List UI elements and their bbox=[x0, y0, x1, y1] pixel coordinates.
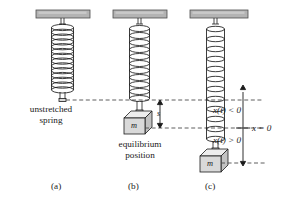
panel-caption-a: (a) bbox=[51, 181, 61, 191]
panel-b-hanger bbox=[136, 18, 143, 24]
x-zero-label: x = 0 bbox=[252, 123, 271, 133]
panel-a-spring bbox=[52, 24, 74, 93]
unstretched-spring-label-line1: unstretched bbox=[12, 104, 90, 114]
panel-a-hanger bbox=[59, 18, 66, 24]
panel-caption-b: (b) bbox=[128, 181, 139, 191]
spring-mass-figure: unstretched spring m s equilibrium posit… bbox=[0, 0, 285, 201]
panel-c-hanger bbox=[212, 18, 219, 24]
panel-a-ceiling bbox=[36, 10, 90, 18]
figure-canvas bbox=[0, 0, 285, 201]
stretch-amount-label: s bbox=[157, 109, 160, 118]
unstretched-spring-label-line2: spring bbox=[12, 115, 90, 125]
panel-b-ceiling bbox=[113, 10, 167, 18]
panel-c-ceiling bbox=[190, 10, 248, 18]
panel-c-mass-symbol: m bbox=[207, 159, 213, 168]
panel-c-spring bbox=[207, 26, 225, 141]
x-axis-reference-line bbox=[236, 85, 250, 166]
panel-caption-c: (c) bbox=[205, 181, 215, 191]
panel-b-mass-block bbox=[124, 111, 152, 134]
equilibrium-position-label-line1: equilibrium bbox=[100, 139, 180, 149]
x-negative-label: x(t) < 0 bbox=[213, 105, 241, 115]
panel-b-spring bbox=[130, 26, 150, 102]
panel-c-mass-block bbox=[200, 149, 228, 172]
x-positive-label: x(t) > 0 bbox=[213, 135, 241, 145]
panel-b-mass-symbol: m bbox=[131, 121, 137, 130]
equilibrium-position-label-line2: position bbox=[100, 150, 180, 160]
